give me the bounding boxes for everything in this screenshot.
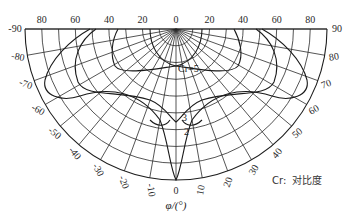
right-phi-label: 90 bbox=[332, 23, 342, 34]
left-phi-label: -30 bbox=[90, 161, 106, 178]
top-theta-label: 20 bbox=[205, 14, 215, 25]
top-theta-label: 20 bbox=[137, 14, 147, 25]
contour-label-cr2: 2 bbox=[184, 126, 189, 137]
right-phi-label: 80 bbox=[328, 50, 340, 63]
right-phi-label: 20 bbox=[221, 176, 235, 189]
right-phi-label: 70 bbox=[320, 77, 333, 91]
right-phi-label: 50 bbox=[290, 125, 305, 140]
top-theta-label: 40 bbox=[238, 14, 248, 25]
right-phi-label: 40 bbox=[269, 146, 284, 161]
right-phi-labels: 908070605040302010 bbox=[194, 23, 342, 196]
axis-title: φ/(°) bbox=[166, 199, 187, 212]
left-phi-label: -90 bbox=[8, 23, 21, 34]
left-phi-labels: -90-80-70-60-50-40-30-20-10 bbox=[8, 23, 158, 197]
legend: Cr: 对比度 bbox=[272, 174, 322, 186]
phi-grid-radials bbox=[25, 29, 327, 180]
contour-label-cr3: 3 bbox=[182, 112, 187, 123]
left-phi-label: -80 bbox=[11, 50, 26, 63]
left-phi-label: -70 bbox=[18, 76, 34, 91]
top-theta-labels: 80604020020406080 bbox=[37, 14, 315, 25]
right-phi-label: 60 bbox=[307, 102, 321, 117]
contour-cr5-lobe-left bbox=[112, 29, 176, 71]
bottom-center-label: 0 bbox=[174, 185, 179, 196]
top-theta-label: 80 bbox=[37, 14, 47, 25]
right-phi-label: 30 bbox=[246, 163, 261, 177]
top-theta-label: 0 bbox=[174, 14, 179, 25]
left-phi-label: -20 bbox=[117, 174, 132, 190]
legend-symbol: Cr: bbox=[272, 175, 286, 186]
right-phi-label: 10 bbox=[194, 184, 207, 196]
top-theta-label: 60 bbox=[70, 14, 80, 25]
top-theta-label: 60 bbox=[272, 14, 282, 25]
top-theta-label: 40 bbox=[104, 14, 114, 25]
legend-text: 对比度 bbox=[292, 174, 322, 186]
contour-label-cr5: Cr=5 bbox=[178, 63, 199, 74]
polar-contrast-diagram: 80604020020406080 -90-80-70-60-50-40-30-… bbox=[0, 0, 353, 220]
left-phi-label: -10 bbox=[145, 182, 158, 197]
top-theta-label: 80 bbox=[305, 14, 315, 25]
